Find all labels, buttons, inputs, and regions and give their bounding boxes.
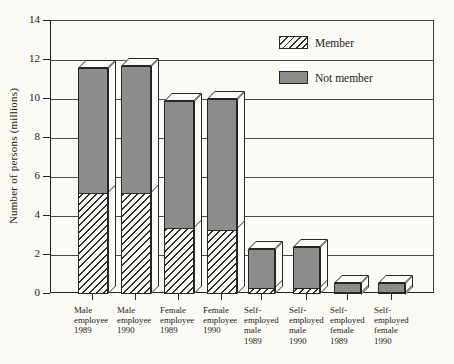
bar-side-face (151, 58, 159, 294)
bar-female-employee-1990 (207, 99, 237, 294)
legend: Member Not member (279, 36, 373, 84)
x-axis-tick (92, 294, 93, 300)
x-category-label-line: Self- (244, 305, 292, 315)
bar-chart: Number of persons (millions) Member Not … (0, 0, 454, 364)
y-axis-tick (43, 20, 50, 21)
y-axis-tick (43, 176, 50, 177)
y-axis-tick (43, 254, 50, 255)
bar-side-face (237, 91, 245, 294)
x-category-label-line: Male (117, 305, 165, 315)
bar-segment-not-member (335, 284, 360, 294)
x-category-label-line: female (374, 325, 422, 335)
x-category-label-line: employee (160, 315, 208, 325)
bar-side-member-boundary (321, 280, 327, 292)
x-axis-tick (261, 294, 262, 300)
x-axis-tick (391, 294, 392, 300)
y-axis-tick (43, 215, 50, 216)
bar-side-member-boundary (362, 284, 368, 292)
x-category-label-line: employee (74, 315, 122, 325)
bar-segment-not-member (294, 248, 319, 289)
x-category-label-line: Female (160, 305, 208, 315)
x-axis-tick (178, 294, 179, 300)
bar-female-employee-1989 (164, 101, 194, 294)
y-axis-tick (43, 59, 50, 60)
x-category-label-line: 1989 (330, 336, 378, 346)
y-axis-tick-label: 0 (0, 286, 40, 298)
plot-area: Member Not member (50, 20, 434, 293)
x-category-label-line: employed (244, 315, 292, 325)
x-category-label: Maleemployee1990 (117, 305, 165, 336)
x-axis-tick (347, 294, 348, 300)
legend-label-not-member: Not member (315, 72, 373, 84)
bar-side-face (194, 93, 202, 294)
x-axis-tick (221, 294, 222, 300)
y-axis-tick-label: 14 (0, 13, 40, 25)
bar-side-member-boundary (276, 280, 282, 292)
bar-male-employee-1989 (78, 68, 108, 294)
bar-segment-not-member (79, 69, 107, 194)
x-category-label-line: Self- (374, 305, 422, 315)
x-category-label: Self-employedfemale1990 (374, 305, 422, 346)
x-category-label-line: employed (374, 315, 422, 325)
x-category-label-line: 1989 (74, 325, 122, 335)
legend-item-member: Member (279, 36, 373, 49)
bar-self-employed-female-1989 (334, 283, 361, 295)
bar-self-employed-male-1989 (248, 249, 275, 294)
x-category-label-line: female (330, 325, 378, 335)
x-category-label: Self-employedfemale1989 (330, 305, 378, 346)
y-axis-title: Number of persons (millions) (7, 88, 19, 224)
y-axis-tick-label: 4 (0, 208, 40, 220)
y-axis-tick (43, 293, 50, 294)
x-category-label-line: 1989 (160, 325, 208, 335)
y-axis-tick (43, 137, 50, 138)
y-axis-tick-label: 6 (0, 169, 40, 181)
legend-label-member: Member (315, 37, 354, 49)
x-axis-tick (306, 294, 307, 300)
x-axis-tick (135, 294, 136, 300)
bar-side-member-boundary (195, 220, 201, 292)
y-axis-tick-label: 10 (0, 91, 40, 103)
bar-segment-not-member (122, 67, 150, 194)
bar-segment-not-member (208, 100, 236, 230)
x-category-label-line: 1989 (244, 336, 292, 346)
bar-segment-not-member (379, 284, 404, 294)
bar-side-face (275, 241, 283, 294)
bar-side-member-boundary (238, 222, 244, 292)
x-category-label: Maleemployee1989 (74, 305, 122, 336)
bar-side-member-boundary (109, 185, 115, 292)
bar-self-employed-female-1990 (378, 283, 405, 295)
not-member-solid-swatch (279, 71, 308, 84)
bar-male-employee-1990 (121, 66, 151, 294)
bar-side-member-boundary (152, 185, 158, 292)
y-axis-tick (43, 98, 50, 99)
y-axis-tick-label: 12 (0, 52, 40, 64)
bar-side-face (108, 60, 116, 294)
x-category-label-line: Male (74, 305, 122, 315)
bar-segment-not-member (165, 102, 193, 229)
bar-side-face (320, 239, 328, 294)
x-category-label-line: Self- (330, 305, 378, 315)
x-category-label-line: employed (330, 315, 378, 325)
x-category-label-line: male (244, 325, 292, 335)
x-category-label: Femaleemployee1989 (160, 305, 208, 336)
x-category-label: Self-employedmale1989 (244, 305, 292, 346)
x-category-label-line: 1990 (374, 336, 422, 346)
member-hatch-swatch (279, 36, 308, 49)
bar-side-member-boundary (406, 284, 412, 292)
y-axis-tick-label: 2 (0, 247, 40, 259)
y-axis-tick-label: 8 (0, 130, 40, 142)
legend-item-not-member: Not member (279, 71, 373, 84)
bar-segment-not-member (249, 250, 274, 289)
x-category-label-line: employee (117, 315, 165, 325)
bar-self-employed-male-1990 (293, 247, 320, 294)
x-category-label-line: 1990 (117, 325, 165, 335)
